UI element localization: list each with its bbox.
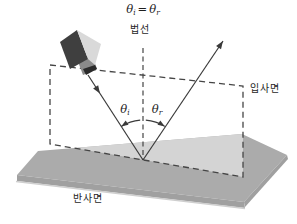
incident-ray-arrowhead <box>93 85 102 95</box>
equation-label: θi=θr <box>103 4 183 16</box>
incidence-angle-arc-arrowhead <box>120 121 129 129</box>
incidence-angle-label: θi <box>114 104 136 116</box>
reflected-ray-arrowhead <box>216 39 225 49</box>
incidence-plane-label: 입사면 <box>250 84 280 94</box>
equation-equals: = <box>136 2 150 16</box>
reflection-angle-label: θr <box>146 104 168 116</box>
camera-icon <box>60 30 101 75</box>
reflection-surface-label: 반사면 <box>73 194 103 204</box>
reflection-diagram: θi=θr 법선 입사면 반사면 θi θr <box>0 0 297 224</box>
normal-line-label: 법선 <box>123 25 157 35</box>
